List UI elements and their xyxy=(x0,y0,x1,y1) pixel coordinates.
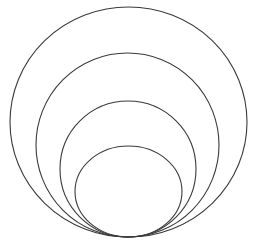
nested-ellipses-diagram xyxy=(0,0,255,249)
